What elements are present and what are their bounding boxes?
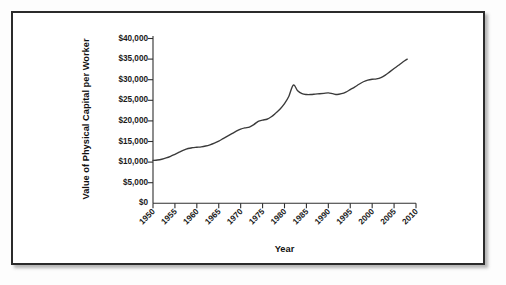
y-tick-label: $15,000 xyxy=(118,137,148,146)
y-tick-label: $10,000 xyxy=(118,157,148,166)
x-tick-label: 2005 xyxy=(379,207,399,227)
x-tick-label: 1970 xyxy=(225,207,245,227)
y-tick-labels: $40,000 $35,000 $30,000 $25,000 $20,000 … xyxy=(118,34,148,208)
x-tick-label: 2000 xyxy=(357,207,377,227)
y-tick-marks xyxy=(148,39,153,183)
x-tick-label: 2010 xyxy=(401,207,421,227)
y-tick-label: $0 xyxy=(139,198,149,207)
y-tick-label: $40,000 xyxy=(118,34,148,43)
y-tick-label: $25,000 xyxy=(118,95,148,104)
x-tick-label: 1960 xyxy=(181,207,201,227)
x-tick-labels: 1950 1955 1960 1965 1970 1975 1980 1985 … xyxy=(138,207,421,227)
y-tick-label: $30,000 xyxy=(118,75,148,84)
x-tick-label: 1980 xyxy=(269,207,289,227)
y-tick-label: $5,000 xyxy=(123,178,148,187)
x-tick-label: 1995 xyxy=(335,207,355,227)
chart-plot-area: Value of Physical Capital per Worker $40… xyxy=(0,0,506,285)
x-tick-marks xyxy=(153,203,416,208)
x-tick-label: 1990 xyxy=(313,207,333,227)
data-series-line xyxy=(153,59,407,160)
x-axis-title: Year xyxy=(275,244,295,254)
x-tick-label: 1965 xyxy=(203,207,223,227)
x-tick-label: 1985 xyxy=(291,207,311,227)
figure-container: Value of Physical Capital per Worker $40… xyxy=(0,0,506,285)
y-axis-title: Value of Physical Capital per Worker xyxy=(81,38,91,199)
x-tick-label: 1950 xyxy=(138,207,158,227)
x-tick-label: 1955 xyxy=(160,207,180,227)
y-tick-label: $35,000 xyxy=(118,54,148,63)
line-chart-svg: Value of Physical Capital per Worker $40… xyxy=(0,0,506,285)
y-tick-label: $20,000 xyxy=(118,116,148,125)
x-tick-label: 1975 xyxy=(247,207,267,227)
